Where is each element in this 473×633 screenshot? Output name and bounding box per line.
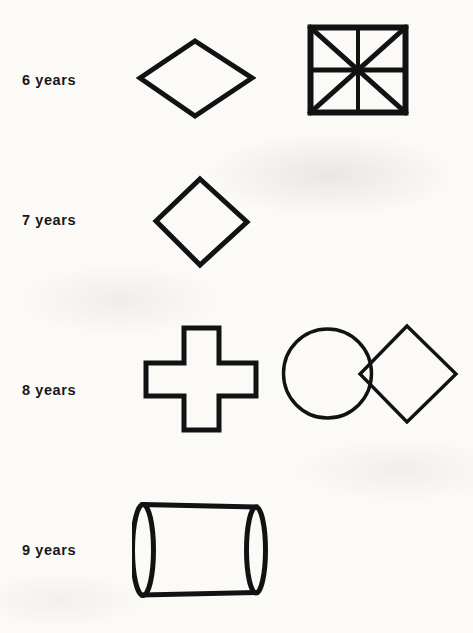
age-row-6-years: 6 years [0,0,473,160]
age-row-7-years: 7 years [0,160,473,310]
age-row-8-years: 8 years [0,310,473,450]
copy-forms-figure: 6 years 7 years 8 years [0,0,473,633]
figure-wide-rhombus [136,37,256,120]
age-label-6-years: 6 years [22,72,76,88]
figure-divided-square [306,23,412,119]
age-label-7-years: 7 years [22,212,76,228]
age-row-9-years: 9 years [0,450,473,633]
age-label-8-years: 8 years [22,382,76,398]
age-label-9-years: 9 years [22,542,76,558]
figure-cylinder [132,497,276,603]
figure-circle-diamond-overlap [279,321,461,424]
figure-diamond [152,175,251,269]
figure-greek-cross [141,324,263,435]
